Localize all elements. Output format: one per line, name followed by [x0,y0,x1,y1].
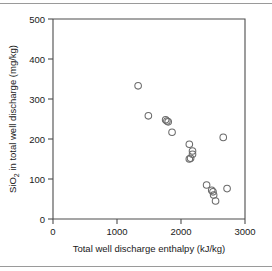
y-tick-label-500: 500 [29,14,45,25]
y-axis-title-part2: in total well discharge (mg/kg) [7,45,18,173]
data-point [169,129,176,136]
x-tick-label-3000: 3000 [234,226,255,237]
x-tick-label-0: 0 [50,226,55,237]
x-axis-tick-labels: 0 1000 2000 3000 [50,226,255,237]
y-axis-ticks [48,19,53,219]
y-axis-tick-labels: 500 400 300 200 100 0 [29,14,45,225]
x-axis-title: Total well discharge enthalpy (kJ/kg) [73,243,226,254]
figure-container: 500 400 300 200 100 0 0 1000 2000 3000 T… [0,0,272,271]
y-tick-label-300: 300 [29,94,45,105]
x-tick-label-1000: 1000 [106,226,127,237]
svg-text:SiO2 in total well discharge (: SiO2 in total well discharge (mg/kg) [7,45,20,193]
data-point [145,113,152,120]
data-point [224,185,231,192]
y-tick-label-400: 400 [29,54,45,65]
data-point [212,198,219,205]
y-axis-title-part1: SiO [7,177,18,193]
scatter-plot: 500 400 300 200 100 0 0 1000 2000 3000 T… [0,0,272,271]
data-point [203,182,210,189]
data-point-group [135,83,231,205]
y-tick-label-100: 100 [29,174,45,185]
y-axis-title: SiO2 in total well discharge (mg/kg) [7,45,20,193]
data-point [135,83,142,90]
data-point [220,134,227,141]
x-axis-ticks [53,219,245,224]
x-tick-label-2000: 2000 [170,226,191,237]
y-tick-label-200: 200 [29,134,45,145]
y-tick-label-0: 0 [40,214,45,225]
data-point [186,141,193,148]
